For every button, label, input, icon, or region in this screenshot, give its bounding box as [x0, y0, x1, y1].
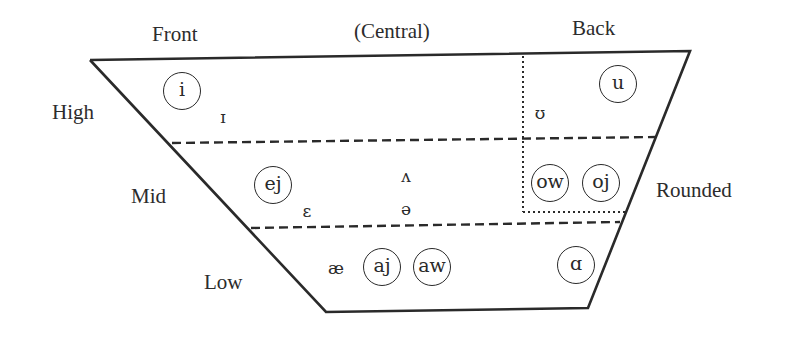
column-label-front: Front [152, 24, 198, 45]
vowel-ej-circled: ej [254, 166, 292, 204]
vowel-small-cap-i: ɪ [220, 109, 225, 126]
row-label-high: High [52, 102, 94, 123]
vowel-oj-circled: oj [582, 164, 620, 202]
vowel-script-a-circled: ɑ [557, 246, 595, 284]
vowel-upsilon: ʊ [535, 105, 546, 122]
row-label-low: Low [204, 272, 243, 293]
vowel-aj-circled: aj [363, 248, 401, 286]
vowel-symbol: ɑ [570, 254, 582, 273]
vowel-wedge: ʌ [401, 168, 411, 185]
vowel-symbol: aw [418, 256, 446, 275]
vowel-schwa: ə [401, 201, 411, 218]
vowel-symbol: aj [373, 256, 390, 275]
vowel-symbol: i [179, 80, 185, 99]
vowel-symbol: u [612, 73, 624, 92]
vowel-symbol: ow [536, 172, 564, 191]
column-label-central: (Central) [354, 21, 430, 42]
high-mid-divider [172, 137, 656, 143]
column-label-back: Back [572, 18, 615, 39]
rounded-label: Rounded [656, 180, 732, 201]
vowel-ow-circled: ow [531, 164, 569, 202]
vowel-i-circled: i [163, 72, 201, 110]
vowel-aw-circled: aw [413, 248, 451, 286]
vowel-epsilon: ɛ [303, 203, 312, 220]
vowel-u-circled: u [599, 65, 637, 103]
vowel-ash: æ [328, 260, 344, 277]
mid-low-divider [251, 222, 620, 228]
vowel-symbol: ej [264, 174, 281, 193]
vowel-symbol: oj [592, 172, 609, 191]
row-label-mid: Mid [131, 186, 166, 207]
